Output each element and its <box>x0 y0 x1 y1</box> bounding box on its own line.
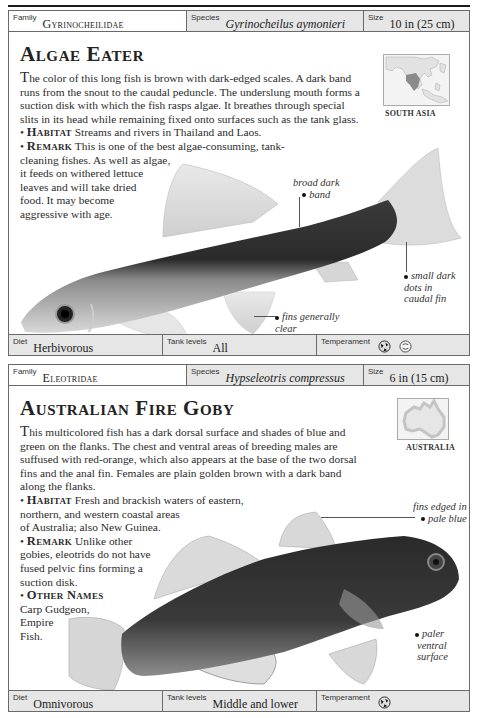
species-label: Species <box>191 13 219 22</box>
annotation-line: paler <box>422 628 444 639</box>
diet-value: Omnivorous <box>33 697 93 711</box>
annotation-line: broad dark <box>293 177 340 189</box>
card-header-row: Family Eleotridae Species Hypseleotris c… <box>9 365 469 386</box>
algae-eater-fish-image <box>13 142 465 334</box>
pointer-dot <box>415 633 419 637</box>
leader-line <box>299 197 300 227</box>
tank-levels-value: Middle and lower <box>213 697 298 711</box>
annotation-line: band <box>309 189 330 200</box>
species-title: Algae Eater <box>20 42 144 67</box>
australia-map-icon <box>398 399 449 440</box>
family-cell: Family Gyrinocheilidae <box>9 11 187 31</box>
annotation-line: caudal fin <box>404 293 456 305</box>
temperament-label: Temperament <box>321 693 370 702</box>
species-value: Gyrinocheilus aymonieri <box>225 17 345 31</box>
diet-label: Diet <box>13 693 27 702</box>
range-map <box>397 398 449 440</box>
habitat-text: Streams and rivers in Thailand and Laos. <box>75 126 262 138</box>
species-cell: Species Gyrinocheilus aymonieri <box>187 11 364 31</box>
family-value: Gyrinocheilidae <box>43 17 124 31</box>
annotation-fins-edged-pale-blue: fins edged in pale blue <box>413 501 467 524</box>
temperament-cell: Temperament <box>317 335 469 355</box>
card-content: Algae Eater The color of this long fish … <box>9 32 469 334</box>
pointer-dot <box>302 193 306 197</box>
species-cell: Species Hypseleotris compressus <box>187 365 364 385</box>
size-label: Size <box>368 367 384 376</box>
tank-levels-cell: Tank levels Middle and lower <box>163 691 317 711</box>
pointer-dot <box>421 517 425 521</box>
aggressive-fish-icon <box>378 340 391 353</box>
leader-line <box>254 316 276 317</box>
semi-aggressive-fish-icon <box>378 696 391 709</box>
annotation-line: ventral <box>415 640 448 652</box>
dropcap: T <box>20 69 29 85</box>
annotation-paler-ventral-surface: paler ventral surface <box>415 628 448 663</box>
fire-goby-fish-image <box>64 504 464 690</box>
peaceful-fish-icon <box>399 340 412 353</box>
dropcap: T <box>20 423 29 439</box>
species-title: Australian Fire Goby <box>20 396 234 421</box>
map-region-label: AUSTRALIA <box>406 443 455 452</box>
annotation-fins-generally-clear: fins generally clear <box>275 311 339 334</box>
leader-line <box>406 242 407 272</box>
card-footer-row: Diet Herbivorous Tank levels All Tempera… <box>9 334 469 355</box>
card-content: Australian Fire Goby This multicolored f… <box>9 386 469 690</box>
card-footer-row: Diet Omnivorous Tank levels Middle and l… <box>9 690 469 711</box>
diet-cell: Diet Herbivorous <box>9 335 163 355</box>
range-map <box>383 54 450 106</box>
size-cell: Size 10 in (25 cm) <box>364 11 469 31</box>
description-text: his multicolored fish has a dark dorsal … <box>20 426 357 492</box>
size-value: 10 in (25 cm) <box>390 17 455 31</box>
diet-cell: Diet Omnivorous <box>9 691 163 711</box>
tank-levels-label: Tank levels <box>167 693 207 702</box>
size-label: Size <box>368 13 384 22</box>
family-label: Family <box>13 367 37 376</box>
size-cell: Size 6 in (15 cm) <box>364 365 469 385</box>
annotation-line: clear <box>275 323 339 335</box>
diet-label: Diet <box>13 337 27 346</box>
annotation-small-dark-dots: small dark dots in caudal fin <box>404 270 456 305</box>
page-top-rule <box>8 5 470 7</box>
family-cell: Family Eleotridae <box>9 365 187 385</box>
habitat-label: Habitat <box>27 125 72 139</box>
annotation-line: dots in <box>404 282 456 294</box>
map-region-label: SOUTH ASIA <box>385 109 436 118</box>
species-value: Hypseleotris compressus <box>225 371 344 385</box>
south-asia-map-icon <box>384 55 450 106</box>
size-value: 6 in (15 cm) <box>390 371 449 385</box>
description-text: he color of this long fish is brown with… <box>20 72 360 125</box>
leader-line <box>321 517 415 518</box>
annotation-line: small dark <box>411 270 456 281</box>
annotation-line: fins edged in <box>413 501 467 513</box>
diet-value: Herbivorous <box>33 341 93 355</box>
tank-levels-value: All <box>213 341 228 355</box>
temperament-cell: Temperament <box>317 691 469 711</box>
family-value: Eleotridae <box>43 371 98 385</box>
species-card-algae-eater: Family Gyrinocheilidae Species Gyrinoche… <box>8 10 470 356</box>
species-card-australian-fire-goby: Family Eleotridae Species Hypseleotris c… <box>8 364 470 712</box>
tank-levels-cell: Tank levels All <box>163 335 317 355</box>
annotation-line: fins generally <box>282 311 339 322</box>
temperament-label: Temperament <box>321 337 370 346</box>
family-label: Family <box>13 13 37 22</box>
annotation-line: surface <box>415 651 448 663</box>
pointer-dot <box>404 275 408 279</box>
annotation-line: pale blue <box>428 513 467 524</box>
card-header-row: Family Gyrinocheilidae Species Gyrinoche… <box>9 11 469 32</box>
species-label: Species <box>191 367 219 376</box>
tank-levels-label: Tank levels <box>167 337 207 346</box>
